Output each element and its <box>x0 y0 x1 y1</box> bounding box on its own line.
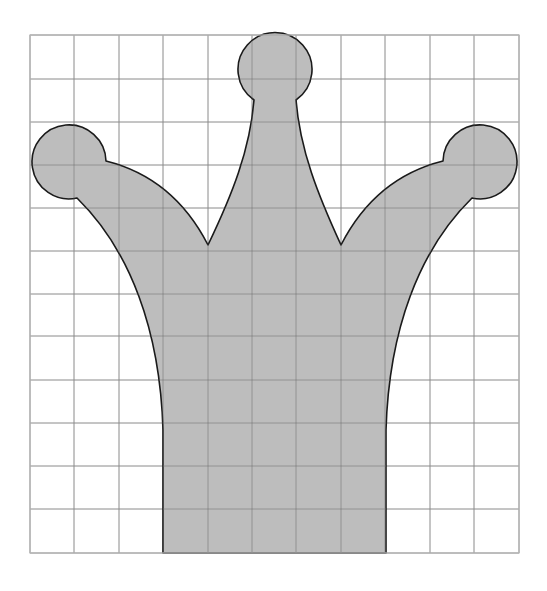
crown-grid-diagram <box>0 0 547 591</box>
crown-shape <box>32 33 517 553</box>
